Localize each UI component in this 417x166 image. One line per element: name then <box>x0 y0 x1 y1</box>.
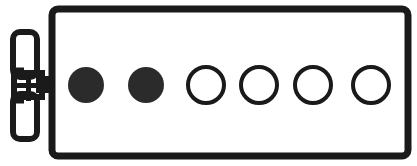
figure-canvas <box>0 0 417 166</box>
technical-drawing <box>0 0 417 166</box>
hole-1 <box>68 67 104 103</box>
hole-2 <box>128 67 164 103</box>
